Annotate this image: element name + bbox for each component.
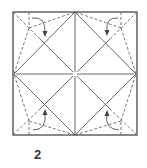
fold-arrow-top-right	[105, 18, 119, 36]
fold-arrow-top-left	[32, 18, 48, 37]
fold-arrow-bottom-left	[33, 109, 48, 130]
center-creases	[16, 12, 134, 135]
step-number: 2	[34, 148, 41, 162]
origami-diagram	[0, 0, 147, 145]
fold-arrow-bottom-right	[105, 110, 120, 130]
